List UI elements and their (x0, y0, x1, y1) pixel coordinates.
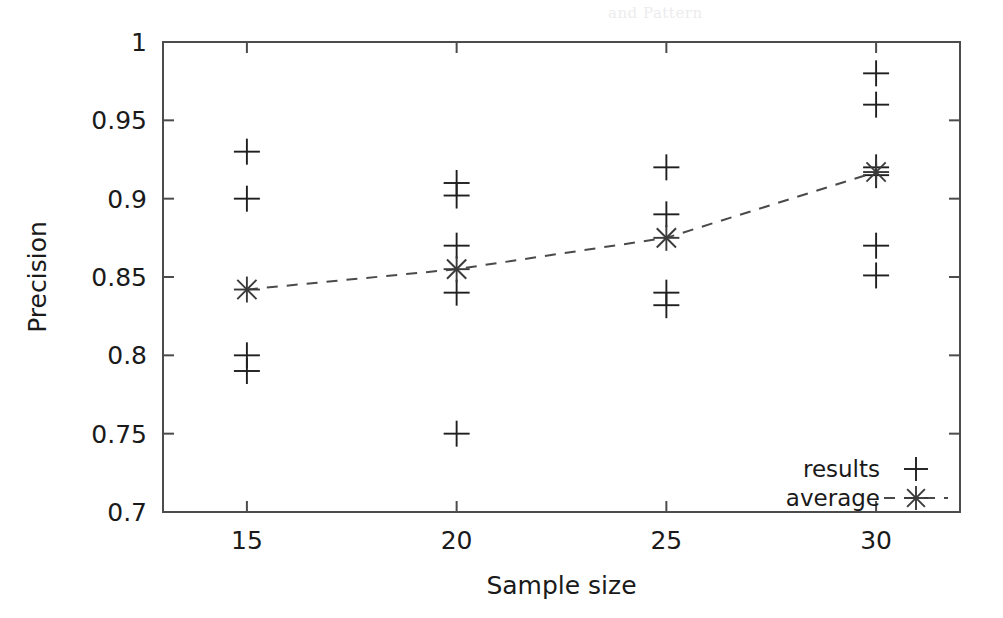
chart-canvas: 0.70.750.80.850.90.95115202530Sample siz… (0, 0, 1003, 618)
x-axis-title: Sample size (486, 571, 636, 600)
y-tick-label-1: 1 (131, 28, 147, 57)
data-point-results-18 (863, 262, 889, 288)
y-tick-label-0.8: 0.8 (107, 341, 147, 370)
y-tick-label-0.7: 0.7 (107, 498, 147, 527)
data-point-average-2 (653, 225, 679, 251)
data-point-results-14 (863, 92, 889, 118)
data-point-results-13 (863, 60, 889, 86)
data-point-average-3 (863, 159, 889, 185)
x-tick-label-15: 15 (231, 526, 263, 555)
average-trend-line (247, 172, 876, 289)
data-point-average-1 (444, 256, 470, 282)
y-axis-title: Precision (23, 221, 52, 333)
data-point-results-9 (653, 154, 679, 180)
plot-frame (163, 42, 960, 512)
data-point-results-8 (444, 421, 470, 447)
y-tick-label-0.85: 0.85 (91, 263, 147, 292)
y-tick-label-0.9: 0.9 (107, 185, 147, 214)
legend-marker-average (904, 486, 928, 510)
data-point-results-7 (444, 280, 470, 306)
series-results (234, 60, 889, 446)
x-tick-label-25: 25 (650, 526, 682, 555)
data-point-results-10 (653, 201, 679, 227)
legend-marker-results (904, 457, 928, 481)
data-point-results-0 (234, 139, 260, 165)
y-tick-label-0.75: 0.75 (91, 420, 147, 449)
x-tick-label-30: 30 (860, 526, 892, 555)
x-tick-label-20: 20 (441, 526, 473, 555)
legend-label-average: average (786, 485, 880, 511)
data-point-average-0 (234, 277, 260, 303)
precision-vs-sample-size-chart: and Pattern 0.70.750.80.850.90.951152025… (0, 0, 1003, 618)
series-average (234, 159, 889, 302)
data-point-results-3 (234, 358, 260, 384)
legend-label-results: results (803, 456, 880, 482)
data-point-results-1 (234, 186, 260, 212)
legend: resultsaverage (786, 456, 948, 511)
data-point-results-17 (863, 233, 889, 259)
data-point-results-6 (444, 233, 470, 259)
data-point-results-5 (444, 183, 470, 209)
y-tick-label-0.95: 0.95 (91, 106, 147, 135)
data-point-results-12 (653, 292, 679, 318)
